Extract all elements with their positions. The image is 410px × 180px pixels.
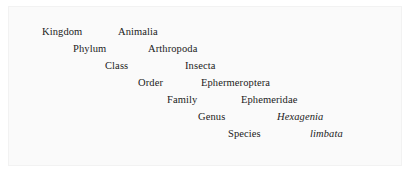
taxon-name-class: Insecta (185, 59, 215, 73)
taxon-name-species: limbata (310, 127, 343, 141)
taxon-name-order: Ephermeroptera (201, 76, 270, 90)
rank-label-kingdom: Kingdom (42, 25, 82, 39)
taxon-name-family: Ephemeridae (241, 93, 298, 107)
rank-label-order: Order (138, 76, 163, 90)
rank-label-family: Family (167, 93, 197, 107)
taxon-name-phylum: Arthropoda (148, 42, 197, 56)
taxonomy-rank-list: Kingdom Animalia Phylum Arthropoda Class… (0, 0, 410, 180)
taxonomy-diagram: Kingdom Animalia Phylum Arthropoda Class… (0, 0, 410, 180)
taxon-name-genus: Hexagenia (277, 110, 323, 124)
rank-label-genus: Genus (198, 110, 225, 124)
rank-label-class: Class (105, 59, 128, 73)
taxon-name-kingdom: Animalia (118, 25, 158, 39)
rank-label-phylum: Phylum (73, 42, 106, 56)
rank-label-species: Species (228, 127, 261, 141)
